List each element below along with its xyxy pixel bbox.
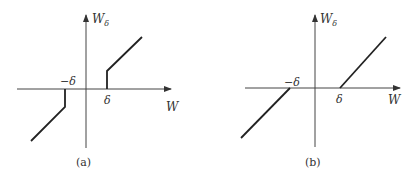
pos-threshold-label: δ bbox=[104, 94, 111, 107]
y-axis-label: Wδ bbox=[320, 12, 337, 28]
positive-branch bbox=[340, 37, 386, 88]
figure-b: Wδ W −δ δ (b) bbox=[241, 12, 402, 169]
neg-threshold-label: −δ bbox=[284, 76, 300, 89]
x-axis-label: W bbox=[166, 100, 180, 114]
pos-threshold-label: δ bbox=[336, 93, 343, 106]
caption-b: (b) bbox=[305, 156, 321, 169]
figure-a: Wδ W −δ δ (a) bbox=[17, 12, 180, 169]
neg-threshold-label: −δ bbox=[60, 75, 76, 88]
negative-branch bbox=[31, 89, 65, 141]
x-axis-label: W bbox=[388, 93, 402, 107]
negative-branch bbox=[241, 88, 290, 138]
dead-zone-diagram: Wδ W −δ δ (a) Wδ W −δ δ (b) bbox=[0, 0, 413, 180]
positive-branch bbox=[107, 37, 142, 89]
y-axis-label: Wδ bbox=[92, 12, 109, 28]
caption-a: (a) bbox=[76, 156, 91, 169]
